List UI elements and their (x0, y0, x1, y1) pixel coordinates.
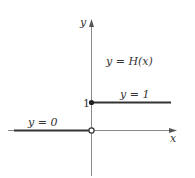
x-axis-label: x (170, 132, 177, 145)
y-axis-arrow-icon (89, 19, 94, 27)
open-point (89, 128, 94, 133)
segment-label-y1: y = 1 (119, 88, 149, 101)
tick-label-one: 1 (83, 97, 90, 110)
function-label: y = H(x) (105, 55, 153, 68)
heaviside-graph: y x y = H(x) y = 1 y = 0 1 (0, 0, 195, 178)
y-axis-label: y (79, 16, 87, 29)
segment-label-y0: y = 0 (27, 116, 57, 129)
